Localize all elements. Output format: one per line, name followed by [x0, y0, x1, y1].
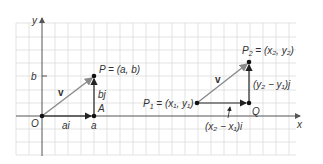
origin-label: O [31, 118, 39, 129]
point-P1 [195, 101, 200, 106]
point-A [92, 114, 97, 119]
x-tick-label-a: a [91, 120, 97, 131]
label-P1: P1 = (x₁, y₁) [143, 98, 194, 110]
y-axis-label: y [31, 15, 38, 26]
point-Q [247, 101, 252, 106]
label-bj: bj [98, 89, 107, 100]
label-P: P = (a, b) [99, 64, 140, 75]
vector-v-left [42, 78, 92, 116]
label-ai: ai [62, 120, 71, 131]
label-y-component: (y₂ − y₁)j [253, 79, 291, 90]
vector-diagram: y x O b a P = (a, b) A v ai bj P1 = (x₁,… [0, 0, 323, 164]
label-x-component: (x₂ − x₁)i [205, 121, 243, 132]
point-P2 [247, 60, 252, 65]
point-P [92, 74, 97, 79]
label-Q: Q [252, 106, 260, 117]
vector-v-right [197, 64, 247, 103]
label-v-right: v [215, 74, 221, 85]
y-tick-label-b: b [31, 71, 37, 82]
right-figure: P1 = (x₁, y₁) P2 = (x₂, y₂) Q v (x₂ − x₁… [143, 45, 294, 132]
label-v-left: v [58, 87, 64, 98]
point-origin [40, 114, 45, 119]
x-axis-label: x [296, 119, 303, 130]
label-A: A [97, 103, 105, 114]
